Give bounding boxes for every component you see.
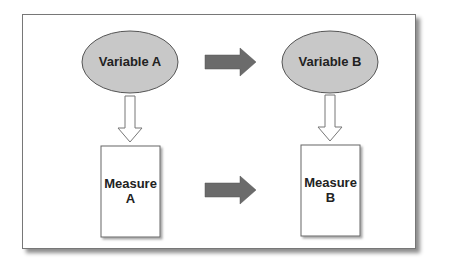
measure-b-label: Measure B <box>301 175 360 205</box>
variable-b-label: Variable B <box>282 54 378 69</box>
measure-a-label-line1: Measure <box>101 176 160 191</box>
arrow-right-icon <box>205 176 256 204</box>
measure-b-label-line2: B <box>301 190 360 205</box>
arrow-right-icon <box>205 48 256 76</box>
diagram-canvas <box>0 0 460 265</box>
arrow-down-icon <box>118 96 142 142</box>
arrow-down-icon <box>318 95 342 141</box>
measure-b-label-line1: Measure <box>301 175 360 190</box>
measure-a-label: Measure A <box>101 176 160 206</box>
variable-a-label: Variable A <box>82 54 178 69</box>
measure-a-label-line2: A <box>101 191 160 206</box>
